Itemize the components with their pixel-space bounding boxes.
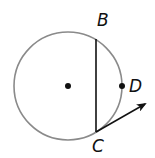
label-c: C [92, 138, 104, 155]
label-d: D [129, 78, 142, 95]
center-point [65, 83, 71, 89]
tangent-ray [96, 104, 145, 132]
label-b: B [97, 12, 109, 29]
point-d [119, 83, 125, 89]
